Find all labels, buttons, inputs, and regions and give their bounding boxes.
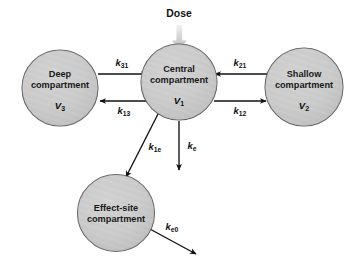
central-compartment-label-line1: Central — [163, 64, 195, 74]
compartment-node-shallow: Shallow compartment V2 — [265, 48, 343, 126]
rate-label-ke0: ke0 — [166, 221, 179, 233]
compartment-model-diagram: Deep compartment V3 Central compartment … — [0, 0, 355, 261]
rate-label-k1e: k1e — [149, 141, 162, 153]
diagram-canvas: Deep compartment V3 Central compartment … — [0, 0, 355, 261]
shallow-compartment-label-line2: compartment — [275, 80, 333, 90]
rate-label-k12: k12 — [234, 105, 247, 117]
effect-site-compartment-label-line1: Effect-site — [94, 203, 138, 213]
rate-label-k13: k13 — [118, 105, 131, 117]
rate-label-k31: k31 — [116, 57, 129, 69]
rate-label-k21: k21 — [234, 57, 247, 69]
compartment-node-deep: Deep compartment V3 — [22, 50, 98, 126]
deep-compartment-label-line1: Deep — [49, 69, 72, 79]
rate-label-ke: ke — [188, 140, 197, 152]
compartment-node-central: Central compartment V1 — [141, 44, 217, 120]
deep-compartment-label-line2: compartment — [31, 80, 89, 90]
shallow-compartment-label-line1: Shallow — [287, 69, 323, 79]
dose-label: Dose — [166, 8, 192, 19]
compartment-node-effect-site: Effect-site compartment — [78, 175, 155, 252]
central-compartment-label-line2: compartment — [150, 75, 208, 85]
effect-site-compartment-label-line2: compartment — [87, 214, 145, 224]
